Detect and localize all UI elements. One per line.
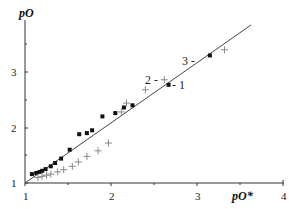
x-axis-title: pO*: [231, 189, 254, 203]
data-point-square: [122, 106, 126, 110]
data-point-square: [59, 157, 63, 161]
y-tick-label: 2: [11, 122, 17, 134]
data-point-square: [167, 83, 171, 87]
x-tick-label: 3: [195, 190, 201, 202]
y-axis: [25, 20, 28, 183]
regression-line: [25, 25, 251, 183]
x-tick-label: 2: [109, 190, 115, 202]
data-point-square: [90, 128, 94, 132]
chart: 1 2 3 1 2 3 4 pO pO* 2 - - 1 3 -: [0, 0, 289, 209]
y-axis-title: pO: [18, 6, 34, 20]
data-point-plus: [83, 153, 90, 160]
data-point-plus: [47, 171, 54, 178]
data-point-plus: [221, 46, 228, 53]
data-point-plus: [54, 168, 61, 175]
data-point-square: [30, 172, 34, 176]
series-2-pluses: [34, 46, 228, 181]
label-series-1: - 1: [172, 78, 185, 92]
x-tick-label: 4: [281, 190, 287, 202]
data-point-square: [53, 161, 57, 165]
data-point-plus: [60, 166, 67, 173]
data-point-square: [100, 114, 104, 118]
data-point-square: [77, 132, 81, 136]
data-point-square: [113, 111, 117, 115]
x-axis: [25, 180, 284, 186]
data-point-square: [85, 131, 89, 135]
data-point-square: [208, 53, 212, 57]
y-tick-label: 3: [11, 66, 17, 78]
y-tick-label: 1: [11, 177, 17, 189]
data-point-plus: [75, 158, 82, 165]
data-point-plus: [161, 76, 168, 83]
data-point-square: [44, 167, 48, 171]
x-tick-label: 1: [23, 190, 29, 202]
data-point-square: [68, 148, 72, 152]
data-point-plus: [95, 147, 102, 154]
data-point-plus: [105, 140, 112, 147]
data-point-plus: [69, 163, 76, 170]
data-point-plus: [142, 86, 149, 93]
data-point-square: [131, 103, 135, 107]
label-series-3: 3 -: [182, 54, 195, 68]
label-series-2: 2 -: [145, 73, 158, 87]
data-point-square: [49, 164, 53, 168]
